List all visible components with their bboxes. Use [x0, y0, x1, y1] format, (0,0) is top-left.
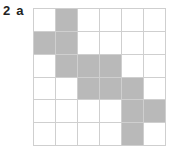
shaded-grid — [33, 8, 166, 146]
grid-cell-empty — [34, 78, 56, 101]
grid-cell-empty — [56, 100, 78, 123]
grid-cell-empty — [144, 55, 166, 78]
grid-cell-shaded — [34, 32, 56, 55]
grid-cell-empty — [144, 9, 166, 32]
question-label: 2a — [3, 3, 23, 18]
grid-cell-shaded — [56, 55, 78, 78]
grid-cell-shaded — [122, 100, 144, 123]
grid-cell-empty — [78, 9, 100, 32]
question-number: 2 — [3, 3, 10, 18]
grid-cell-shaded — [78, 78, 100, 101]
question-part: a — [16, 3, 23, 18]
grid-cell-empty — [78, 123, 100, 146]
grid-cell-empty — [34, 123, 56, 146]
grid-cell-empty — [144, 32, 166, 55]
grid-cell-empty — [78, 100, 100, 123]
grid-cell-empty — [34, 9, 56, 32]
grid-cell-shaded — [100, 55, 122, 78]
grid-cell-shaded — [56, 9, 78, 32]
grid-cell-empty — [100, 100, 122, 123]
grid-cell-empty — [122, 9, 144, 32]
grid-cell-empty — [100, 32, 122, 55]
grid-cell-empty — [34, 100, 56, 123]
grid-cell-empty — [144, 123, 166, 146]
grid-cell-empty — [78, 32, 100, 55]
grid-cell-empty — [144, 78, 166, 101]
grid-cell-empty — [100, 123, 122, 146]
grid-cell-shaded — [144, 100, 166, 123]
grid-cell-empty — [122, 55, 144, 78]
grid-cell-shaded — [122, 78, 144, 101]
grid-cell-shaded — [56, 32, 78, 55]
grid-cell-empty — [122, 32, 144, 55]
grid-cell-empty — [56, 123, 78, 146]
grid-cell-shaded — [78, 55, 100, 78]
grid-cell-empty — [34, 55, 56, 78]
grid-cell-shaded — [100, 78, 122, 101]
grid-cell-shaded — [122, 123, 144, 146]
grid-cell-empty — [56, 78, 78, 101]
grid-cell-empty — [100, 9, 122, 32]
